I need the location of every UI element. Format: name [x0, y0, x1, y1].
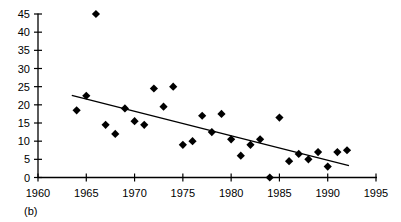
data-point-marker [208, 128, 216, 136]
y-tick-label: 10 [18, 135, 30, 147]
x-tick-label: 1990 [315, 187, 339, 199]
data-point-marker [169, 83, 177, 91]
data-point-marker [217, 110, 225, 118]
y-tick-label: 5 [24, 153, 30, 165]
data-point-marker [92, 10, 100, 18]
panel-label: (b) [24, 205, 37, 217]
x-tick-label: 1965 [74, 187, 98, 199]
x-tick-label: 1960 [26, 187, 50, 199]
y-tick-label: 40 [18, 26, 30, 38]
data-point-marker [73, 106, 81, 114]
scatter-plot-figure: 051015202530354045 196019651970197519801… [0, 0, 401, 222]
data-point-marker [179, 141, 187, 149]
x-tick-label: 1975 [171, 187, 195, 199]
y-tick-label: 25 [18, 81, 30, 93]
x-tick-label: 1970 [122, 187, 146, 199]
data-point-marker [295, 150, 303, 158]
data-point-marker [266, 173, 274, 181]
data-point-marker [314, 148, 322, 156]
data-point-marker [237, 152, 245, 160]
y-tick-label: 0 [24, 172, 30, 184]
y-tick-label: 45 [18, 8, 30, 20]
data-point-marker [188, 137, 196, 145]
y-axis: 051015202530354045 [18, 8, 42, 184]
data-point-marker [285, 157, 293, 165]
data-point-marker [150, 84, 158, 92]
data-point-marker [333, 148, 341, 156]
plot-canvas: 051015202530354045 196019651970197519801… [0, 0, 401, 222]
data-point-marker [343, 146, 351, 154]
y-tick-label: 35 [18, 44, 30, 56]
x-tick-label: 1995 [364, 187, 388, 199]
data-point-marker [275, 113, 283, 121]
y-tick-label: 15 [18, 117, 30, 129]
data-point-marker [159, 103, 167, 111]
data-point-marker [130, 117, 138, 125]
x-tick-label: 1980 [219, 187, 243, 199]
data-point-marker [111, 130, 119, 138]
y-tick-label: 20 [18, 99, 30, 111]
data-point-marker [140, 121, 148, 129]
x-axis: 19601965197019751980198519901995 [26, 174, 388, 199]
data-point-marker [198, 112, 206, 120]
x-tick-label: 1985 [267, 187, 291, 199]
data-point-marker [324, 163, 332, 171]
data-point-marker [121, 104, 129, 112]
data-point-marker [102, 121, 110, 129]
y-tick-label: 30 [18, 63, 30, 75]
